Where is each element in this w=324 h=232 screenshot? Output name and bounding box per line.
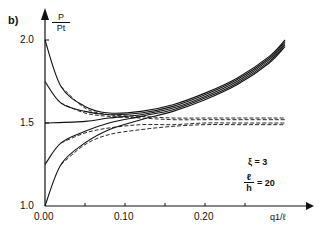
x-axis-arrow-icon bbox=[306, 202, 314, 210]
fraction-numerator: ℓ bbox=[244, 172, 254, 183]
y-tick-label: 1.0 bbox=[20, 201, 34, 211]
y-label-denominator: Pt bbox=[52, 23, 70, 33]
x-axis-label: q1/ℓ bbox=[270, 212, 285, 222]
y-axis-label: P Pt bbox=[52, 12, 70, 33]
fraction-denominator: h bbox=[244, 183, 254, 193]
y-tick-label: 2.0 bbox=[20, 35, 34, 45]
solid-curve bbox=[45, 43, 285, 123]
y-label-numerator: P bbox=[52, 12, 70, 23]
y-tick-label: 1.5 bbox=[20, 118, 34, 128]
xi-annotation: ξ = 3 bbox=[248, 157, 267, 167]
solid-curve bbox=[45, 40, 285, 113]
y-axis-arrow-icon bbox=[41, 8, 49, 20]
l-over-h-value: = 20 bbox=[257, 178, 275, 188]
x-tick-label: 0.20 bbox=[194, 212, 213, 222]
l-over-h-fraction: ℓ h bbox=[244, 172, 254, 193]
x-tick-label: 0.00 bbox=[34, 212, 53, 222]
plot-area bbox=[0, 0, 324, 232]
x-tick-label: 0.10 bbox=[114, 212, 133, 222]
